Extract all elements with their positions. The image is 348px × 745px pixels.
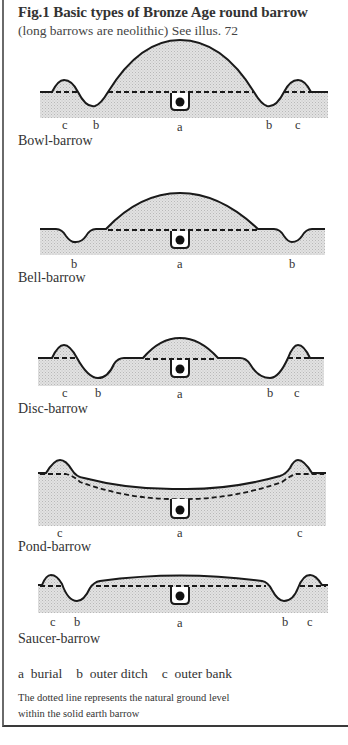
bowl-barrow-diagram: c b a b c	[40, 40, 328, 134]
burial-icon	[176, 236, 185, 245]
label-a: a	[177, 257, 183, 271]
legend-outer-bank: c outer bank	[162, 666, 232, 681]
label-a: a	[177, 387, 183, 401]
caption-note: The dotted line represents the natural g…	[18, 690, 229, 722]
note-line-2: within the solid earth barrow	[18, 706, 229, 722]
label-c: c	[50, 615, 56, 629]
label-c: c	[307, 615, 313, 629]
pond-barrow-diagram: c a c	[38, 460, 326, 540]
bell-barrow-diagram: b a b	[40, 193, 325, 271]
burial-icon	[176, 365, 185, 374]
saucer-barrow-diagram: c b a b c	[38, 575, 328, 630]
disc-barrow-title: Disc-barrow	[18, 401, 88, 417]
label-c: c	[57, 526, 63, 540]
burial-icon	[176, 98, 185, 107]
label-b: b	[74, 615, 80, 629]
label-b: b	[93, 118, 99, 132]
label-a: a	[177, 120, 183, 134]
label-a: a	[177, 526, 183, 540]
label-a: a	[177, 616, 183, 630]
disc-barrow-diagram: c b a b c	[38, 338, 324, 401]
label-b: b	[71, 257, 77, 271]
note-line-1: The dotted line represents the natural g…	[18, 690, 229, 706]
label-b: b	[267, 386, 273, 400]
legend: a burialb outer ditchc outer bank	[18, 666, 246, 682]
legend-burial: a burial	[18, 666, 62, 681]
label-c: c	[297, 526, 303, 540]
burial-icon	[176, 592, 185, 601]
label-b: b	[289, 257, 295, 271]
saucer-barrow-title: Saucer-barrow	[18, 631, 100, 647]
legend-outer-ditch: b outer ditch	[76, 666, 148, 681]
label-b: b	[266, 118, 272, 132]
pond-barrow-title: Pond-barrow	[18, 539, 91, 555]
label-c: c	[294, 386, 300, 400]
label-c: c	[62, 118, 68, 132]
bell-barrow-title: Bell-barrow	[18, 270, 86, 286]
burial-icon	[176, 506, 185, 515]
label-c: c	[295, 118, 301, 132]
label-b: b	[95, 386, 101, 400]
label-c: c	[62, 386, 68, 400]
label-b: b	[282, 615, 288, 629]
bowl-barrow-title: Bowl-barrow	[18, 133, 93, 149]
